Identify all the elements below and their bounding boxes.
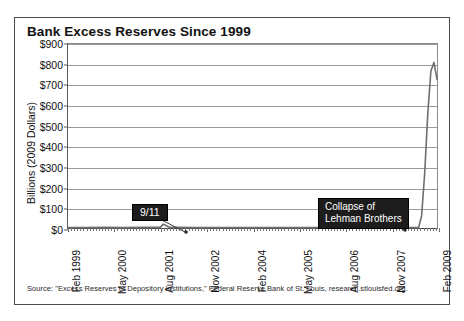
x-minor-tick	[263, 228, 264, 231]
x-minor-tick	[68, 228, 69, 231]
x-minor-tick	[111, 228, 112, 231]
x-minor-tick	[433, 228, 434, 231]
x-minor-tick	[80, 228, 81, 231]
x-minor-tick	[417, 228, 418, 231]
x-minor-tick	[266, 228, 267, 231]
y-tick-label: $200	[40, 183, 63, 195]
annotation-sept11-label: 9/11	[140, 206, 160, 218]
x-minor-tick	[145, 228, 146, 231]
x-minor-tick	[139, 228, 140, 231]
x-minor-tick	[99, 228, 100, 231]
x-minor-tick	[436, 228, 437, 231]
y-tick-label: $600	[40, 100, 63, 112]
x-minor-tick	[142, 228, 143, 231]
y-axis-title-label: Billions (2009 Dollars)	[25, 102, 37, 204]
x-minor-tick	[173, 228, 174, 231]
x-minor-tick	[269, 228, 270, 231]
annotation-lehman-line1: Collapse of	[325, 201, 402, 213]
x-minor-tick	[71, 228, 72, 231]
chart-title: Bank Excess Reserves Since 1999	[27, 24, 251, 39]
x-minor-tick	[411, 228, 412, 231]
x-minor-tick	[127, 228, 128, 231]
x-minor-tick	[250, 228, 251, 231]
x-minor-tick	[198, 228, 199, 231]
annotation-sept11: 9/11	[132, 204, 168, 221]
y-tick-label: $900	[40, 38, 63, 50]
x-minor-tick	[151, 228, 152, 231]
x-minor-tick	[158, 228, 159, 231]
x-minor-tick	[297, 228, 298, 231]
x-minor-tick	[189, 228, 190, 231]
x-minor-tick	[201, 228, 202, 231]
x-minor-tick	[424, 228, 425, 231]
source-note: Source: "Excess Reserves of Depository I…	[27, 284, 408, 293]
y-tick-label: $100	[40, 203, 63, 215]
x-minor-tick	[185, 228, 186, 231]
x-tick-label: Feb 2009	[442, 250, 453, 292]
x-minor-tick	[284, 228, 285, 231]
x-minor-tick	[167, 228, 168, 231]
x-minor-tick	[164, 228, 165, 231]
chart-figure: Bank Excess Reserves Since 1999 Billions…	[14, 17, 450, 305]
x-minor-tick	[130, 228, 131, 231]
x-minor-tick	[257, 228, 258, 231]
y-axis-title: Billions (2009 Dollars)	[23, 60, 39, 246]
x-minor-tick	[300, 228, 301, 231]
y-tick-label: $700	[40, 79, 63, 91]
x-minor-tick	[124, 228, 125, 231]
x-minor-tick	[278, 228, 279, 231]
x-minor-tick	[238, 228, 239, 231]
x-minor-tick	[77, 228, 78, 231]
x-minor-tick	[210, 228, 211, 231]
x-minor-tick	[90, 228, 91, 231]
x-minor-tick	[105, 228, 106, 231]
x-minor-tick	[420, 228, 421, 231]
x-minor-tick	[229, 228, 230, 231]
y-tick-label: $400	[40, 141, 63, 153]
x-minor-tick	[114, 228, 115, 231]
x-minor-tick	[254, 228, 255, 231]
x-minor-tick	[213, 228, 214, 231]
x-minor-tick	[223, 228, 224, 231]
y-tick-label: $0	[51, 224, 63, 236]
x-minor-tick	[427, 228, 428, 231]
x-minor-tick	[170, 228, 171, 231]
x-minor-tick	[93, 228, 94, 231]
x-minor-tick	[96, 228, 97, 231]
x-minor-tick	[281, 228, 282, 231]
annotation-lehman-line2: Lehman Brothers	[325, 213, 402, 225]
x-minor-tick	[294, 228, 295, 231]
x-minor-tick	[204, 228, 205, 231]
y-tick-label: $500	[40, 121, 63, 133]
x-minor-tick	[207, 228, 208, 231]
x-minor-tick	[247, 228, 248, 231]
annotation-lehman: Collapse ofLehman Brothers	[318, 198, 409, 229]
x-minor-tick	[414, 228, 415, 231]
x-minor-tick	[192, 228, 193, 231]
x-minor-tick	[439, 228, 440, 231]
x-minor-tick	[288, 228, 289, 231]
x-minor-tick	[260, 228, 261, 231]
x-minor-tick	[155, 228, 156, 231]
x-minor-tick	[235, 228, 236, 231]
x-minor-tick	[121, 228, 122, 231]
x-minor-tick	[161, 228, 162, 231]
x-minor-tick	[87, 228, 88, 231]
x-minor-tick	[182, 228, 183, 231]
x-minor-tick	[226, 228, 227, 231]
x-minor-tick	[315, 228, 316, 231]
x-minor-tick	[74, 228, 75, 231]
x-minor-tick	[272, 228, 273, 231]
x-minor-tick	[195, 228, 196, 231]
x-minor-tick	[176, 228, 177, 231]
x-minor-tick	[179, 228, 180, 231]
x-minor-tick	[83, 228, 84, 231]
y-tick-label: $800	[40, 59, 63, 71]
x-minor-tick	[275, 228, 276, 231]
x-minor-tick	[312, 228, 313, 231]
x-minor-tick	[136, 228, 137, 231]
x-minor-tick	[232, 228, 233, 231]
x-minor-tick	[148, 228, 149, 231]
x-minor-tick	[241, 228, 242, 231]
x-minor-tick	[244, 228, 245, 231]
